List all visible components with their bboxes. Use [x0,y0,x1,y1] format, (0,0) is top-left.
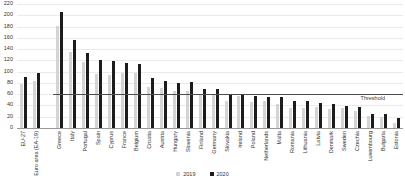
bar-group [30,4,43,128]
x-axis-label-cell: EU-27 [17,131,30,177]
bar-2020 [345,106,348,128]
bar-2019 [289,108,292,128]
bar-2020 [332,104,335,128]
legend-item-2019: 2019 [176,172,195,178]
bar-2019 [95,74,98,128]
x-axis-label-cell: Latvia [312,131,325,177]
bar-2020 [73,40,76,128]
bar-2019 [341,108,344,128]
bar-group [222,4,235,128]
bar-group [390,4,403,128]
x-axis-label: Bulgaria [381,131,387,151]
legend: 20192020 [0,172,405,178]
bar-2020 [384,114,387,128]
y-axis-tick-label: 20 [7,114,13,120]
bar-2020 [397,118,400,128]
bar-2019 [199,94,202,128]
bar-group [118,4,131,128]
bar-2019 [393,123,396,128]
x-axis-label-cell: Romania [286,131,299,177]
bar-2020 [319,103,322,128]
x-axis-label: Romania [290,131,296,153]
x-axis-label: EU-27 [21,131,27,147]
x-axis-label: Slovenia [186,131,192,152]
bar-group [209,4,222,128]
y-axis-tick-label: 40 [7,103,13,109]
x-axis-label: Greece [57,131,63,149]
bar-2019 [56,26,59,128]
y-axis-tick-label: 180 [4,24,13,30]
x-axis-label: Netherlands [264,131,270,161]
bar-2019 [225,101,228,128]
x-axis-label-cell: Ireland [235,131,248,177]
bar-group [157,4,170,128]
y-axis-tick-label: 80 [7,80,13,86]
bar-groups [17,4,403,128]
x-axis-label: Denmark [329,131,335,153]
bar-2019 [237,96,240,128]
plot-area: Threshold [17,4,403,129]
bar-group [183,4,196,128]
bar-2020 [358,107,361,128]
x-axis-label-cell: Sweden [338,131,351,177]
bar-group [17,4,30,128]
bar-group [273,4,286,128]
bar-2019 [315,107,318,128]
y-axis-tick-label: 60 [7,91,13,97]
bar-group [260,4,273,128]
bar-2020 [164,81,167,128]
x-axis-label-cell: Bulgaria [377,131,390,177]
x-axis-labels: EU-27Euro area (EA-19)GreeceItalyPortuga… [17,131,403,177]
y-axis-tick-label: 160 [4,35,13,41]
x-axis-label: Belgium [134,131,140,151]
bar-2020 [280,97,283,128]
bar-2019 [250,102,253,128]
bar-2020 [37,73,40,128]
bar-2020 [267,97,270,128]
threshold-label: Threshold [361,96,385,102]
bar-group [364,4,377,128]
bar-2019 [186,91,189,128]
x-axis-label: Lithuania [303,131,309,153]
x-axis-label: Italy [70,131,76,141]
x-axis-label-cell: Estonia [390,131,403,177]
bar-2020 [151,78,154,128]
x-axis-label-cell: Euro area (EA-19) [30,131,43,177]
legend-label: 2019 [183,172,195,178]
x-axis-label-cell: Belgium [131,131,144,177]
bar-2020 [306,101,309,128]
x-axis-label: Hungary [173,131,179,152]
bar-2020 [254,96,257,128]
x-axis-label-cell: Austria [157,131,170,177]
bar-2020 [86,53,89,128]
x-axis-label: Cyprus [109,131,115,148]
x-axis-label: Ireland [238,131,244,148]
bar-2019 [328,109,331,128]
legend-item-2020: 2020 [210,172,229,178]
bar-2020 [190,82,193,128]
x-axis-label-cell: Finland [196,131,209,177]
bar-2019 [302,108,305,128]
bar-2019 [134,73,137,128]
x-axis-label: Portugal [83,131,89,152]
bar-group [105,4,118,128]
threshold-line [53,94,403,95]
x-axis-label-cell: Portugal [79,131,92,177]
bar-2019 [380,117,383,128]
bar-2020 [293,101,296,128]
x-axis-label-cell: Netherlands [260,131,273,177]
bar-group [247,4,260,128]
x-axis-label-cell: Lithuania [299,131,312,177]
bar-group [131,4,144,128]
bar-group [92,4,105,128]
x-axis-label: Sweden [342,131,348,151]
x-axis-label-cell: Denmark [325,131,338,177]
y-axis-tick-label: 140 [4,46,13,52]
y-axis-tick-label: 220 [4,1,13,7]
bar-2019 [33,81,36,128]
bar-2019 [367,116,370,128]
bar-group [53,4,66,128]
x-axis-label-cell: Czechia [351,131,364,177]
bar-2020 [241,94,244,128]
x-axis-label: Finland [199,131,205,149]
